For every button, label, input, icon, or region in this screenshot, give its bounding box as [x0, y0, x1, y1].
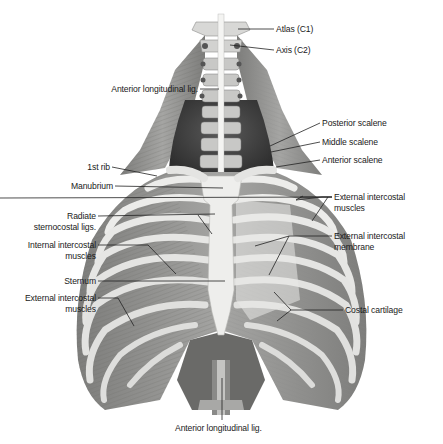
- label-external-intercostal-muscles-right: External intercostal muscles: [334, 192, 405, 213]
- label-external-intercostal-membrane: External intercostal membrane: [334, 231, 405, 252]
- label-anterior-longitudinal-lig-top: Anterior longitudinal lig.: [111, 84, 198, 95]
- rib-cage: [77, 170, 367, 415]
- label-radiate-sternocostal-ligs: Radiate sternocostal ligs.: [34, 211, 96, 232]
- label-atlas: Atlas (C1): [276, 24, 313, 35]
- label-sternum: Sternum: [64, 276, 96, 287]
- label-anterior-scalene: Anterior scalene: [322, 155, 383, 166]
- label-internal-intercostal-muscles: Internal intercostal muscles: [28, 240, 96, 261]
- label-anterior-longitudinal-lig-bottom: Anterior longitudinal lig.: [175, 423, 262, 434]
- label-axis: Axis (C2): [276, 45, 310, 56]
- label-costal-cartilage: Costal cartilage: [345, 305, 403, 316]
- label-external-intercostal-muscles-left: External intercostal muscles: [25, 293, 96, 314]
- label-first-rib: 1st rib: [87, 162, 110, 173]
- label-manubrium: Manubrium: [71, 181, 113, 192]
- label-posterior-scalene: Posterior scalene: [322, 118, 387, 129]
- label-middle-scalene: Middle scalene: [322, 137, 378, 148]
